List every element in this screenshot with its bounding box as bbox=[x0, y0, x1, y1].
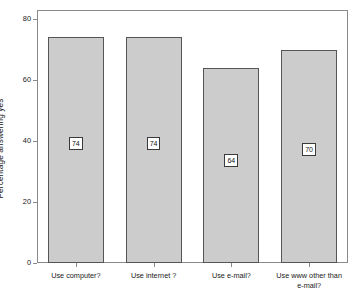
y-axis-title: Percentage answering yes bbox=[0, 0, 18, 297]
bar-value-label: 74 bbox=[147, 137, 161, 150]
bar-value-label: 74 bbox=[69, 137, 83, 150]
y-tick: 0 bbox=[0, 263, 37, 264]
x-tick-mark bbox=[309, 263, 310, 267]
y-tick-label: 40 bbox=[23, 136, 31, 146]
y-tick: 40 bbox=[0, 141, 37, 142]
x-tick-mark bbox=[154, 263, 155, 267]
x-tick-mark bbox=[231, 263, 232, 267]
bar-value-label: 70 bbox=[302, 143, 316, 156]
y-tick-label: 80 bbox=[23, 14, 31, 24]
bar bbox=[126, 37, 182, 263]
y-tick: 60 bbox=[0, 80, 37, 81]
y-tick-label: 0 bbox=[27, 258, 31, 268]
y-tick-mark bbox=[33, 263, 37, 264]
x-tick-label: Use computer? bbox=[37, 271, 115, 281]
bar-chart: Percentage answering yes 020406080 74746… bbox=[0, 0, 356, 297]
y-tick-label: 60 bbox=[23, 75, 31, 85]
bar bbox=[48, 37, 104, 263]
bar-value-label: 64 bbox=[224, 154, 238, 167]
x-tick-mark bbox=[76, 263, 77, 267]
x-tick-label: Use www other than e-mail? bbox=[270, 271, 348, 290]
x-tick-label: Use e-mail? bbox=[193, 271, 271, 281]
y-tick: 80 bbox=[0, 19, 37, 20]
x-tick-label: Use internet ? bbox=[115, 271, 193, 281]
y-tick-label: 20 bbox=[23, 197, 31, 207]
y-tick: 20 bbox=[0, 202, 37, 203]
